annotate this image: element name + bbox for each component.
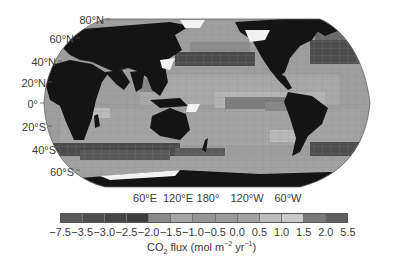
colorbar-tick-label: 2.0 <box>318 226 333 238</box>
lat-label-20n: 20°N <box>6 77 46 89</box>
lat-label-60s: 60°S <box>34 166 74 178</box>
colorbar-segment <box>282 214 304 222</box>
colorbar-segment <box>238 214 260 222</box>
lat-label-20s: 20°S <box>6 121 46 133</box>
colorbar-segment <box>326 214 347 222</box>
lon-label-120w: 120°W <box>230 192 263 204</box>
colorbar-tick-label: 0.0 <box>230 226 245 238</box>
colorbar-tick-label: 5.5 <box>340 226 355 238</box>
colorbar-tick-label: −2.5 <box>116 226 138 238</box>
colorbar-segment <box>260 214 282 222</box>
lat-label-60n: 60°N <box>34 33 74 45</box>
colorbar-tick-label: −0.5 <box>204 226 226 238</box>
lat-label-equator: 0° <box>0 98 38 110</box>
colorbar-tick-label: 1.0 <box>274 226 289 238</box>
colorbar-segment <box>216 214 238 222</box>
colorbar-segment <box>304 214 326 222</box>
colorbar-segment <box>61 214 83 222</box>
colorbar-title: CO2 flux (mol m−2 yr−1) <box>0 238 403 258</box>
lat-label-40n: 40°N <box>16 56 56 68</box>
colorbar <box>60 213 348 223</box>
colorbar-segment <box>83 214 105 222</box>
lon-label-120e: 120°E <box>163 192 193 204</box>
lat-label-40s: 40°S <box>16 144 56 156</box>
colorbar-tick-label: −3.5 <box>71 226 93 238</box>
colorbar-segment <box>105 214 127 222</box>
lon-label-60e: 60°E <box>133 192 157 204</box>
colorbar-tick-label: −1.0 <box>182 226 204 238</box>
colorbar-segment <box>149 214 171 222</box>
colorbar-segment <box>193 214 215 222</box>
colorbar-tick-label: −2.0 <box>138 226 160 238</box>
colorbar-tick-label: −3.0 <box>93 226 115 238</box>
colorbar-tick-label: 1.5 <box>296 226 311 238</box>
co2-flux-map <box>0 0 403 210</box>
colorbar-tick-label: −1.5 <box>160 226 182 238</box>
map-body <box>0 0 403 210</box>
colorbar-segment <box>127 214 149 222</box>
colorbar-segment <box>171 214 193 222</box>
lon-label-180: 180° <box>197 192 220 204</box>
lon-label-60w: 60°W <box>274 192 301 204</box>
lat-label-80n: 80°N <box>64 14 104 26</box>
colorbar-tick-label: 0.5 <box>252 226 267 238</box>
colorbar-tick-label: −7.5 <box>49 226 71 238</box>
